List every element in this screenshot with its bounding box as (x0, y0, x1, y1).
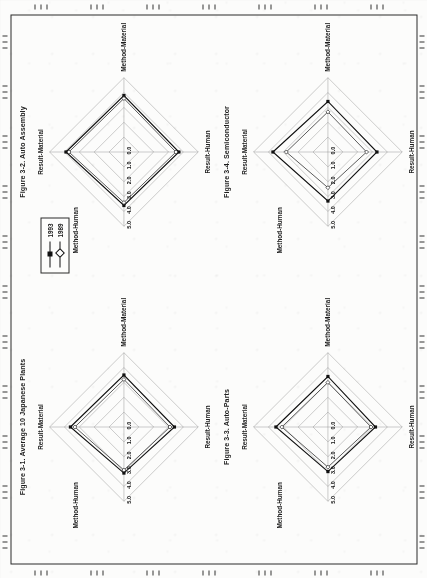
data-point-marker (325, 374, 328, 377)
open-diamond-marker-icon (55, 241, 63, 267)
radial-tick-label: 4.0 (329, 206, 335, 214)
figure-grid: Figure 3-1. Average 10 Japanese Plants 0… (10, 14, 417, 564)
radar-series-1989 (68, 98, 175, 202)
data-point-marker (325, 380, 329, 384)
axis-label-method-human: Method-Human (71, 482, 78, 528)
axis-label-result-material: Result-Material (240, 403, 247, 449)
radar-series-1989 (74, 379, 169, 470)
figure-title-3-4: Figure 3-4. Semiconductor (222, 14, 230, 289)
radial-tick-label: 0.0 (126, 146, 132, 154)
radial-tick-label: 2.0 (329, 176, 335, 184)
radar-gridline (94, 122, 153, 181)
axis-label-method-material: Method-Material (323, 297, 330, 346)
radar-gridline (312, 412, 342, 442)
radial-tick-label: 1.0 (126, 436, 132, 444)
axis-label-method-material: Method-Material (120, 297, 127, 346)
figure-cell-3-2: Figure 3-2. Auto Assembly 0.01.02.03.04.… (10, 14, 214, 289)
figure-cell-3-3: Figure 3-3. Auto-Parts 0.01.02.03.04.05.… (214, 289, 418, 564)
axis-label-method-human: Method-Human (275, 207, 282, 253)
legend-entry-1993: 1993 (44, 223, 54, 267)
axis-label-method-material: Method-Material (323, 22, 330, 71)
legend-entry-1989: 1989 (54, 223, 64, 267)
radar-gridline (297, 122, 356, 181)
radar-gridline (282, 107, 371, 196)
radial-tick-label: 2.0 (126, 451, 132, 459)
axis-label-result-material: Result-Material (240, 128, 247, 174)
radial-tick-label: 4.0 (126, 481, 132, 489)
data-point-marker (64, 150, 67, 153)
radial-tick-label: 0.0 (329, 421, 335, 429)
radial-tick-label: 1.0 (329, 436, 335, 444)
radar-chart-3-1: 0.01.02.03.04.05.0Result-MaterialMethod-… (28, 289, 212, 564)
radar-chart-3-4: 0.01.02.03.04.05.0Result-MaterialMethod-… (232, 14, 416, 289)
crop-ticks-bottom (419, 0, 425, 578)
document-page: Figure 3-1. Average 10 Japanese Plants 0… (0, 0, 427, 578)
axis-label-result-material: Result-Material (36, 403, 43, 449)
radial-tick-label: 4.0 (329, 481, 335, 489)
scanned-sheet-rotated: Figure 3-1. Average 10 Japanese Plants 0… (0, 0, 427, 578)
data-point-marker (325, 109, 329, 113)
figure-cell-3-1: Figure 3-1. Average 10 Japanese Plants 0… (10, 289, 214, 564)
radar-gridline (297, 397, 356, 456)
crop-ticks-top (2, 0, 8, 578)
radar-svg: 0.01.02.03.04.05.0Result-MaterialMethod-… (28, 289, 212, 564)
radar-svg: 0.01.02.03.04.05.0Result-MaterialMethod-… (232, 14, 416, 289)
figure-title-3-2: Figure 3-2. Auto Assembly (18, 14, 26, 289)
radial-tick-label: 4.0 (126, 206, 132, 214)
radar-gridline (109, 412, 139, 442)
filled-square-marker-icon (45, 241, 53, 267)
radar-gridline (64, 92, 183, 211)
crop-ticks-left (0, 569, 427, 575)
axis-label-method-human: Method-Human (275, 482, 282, 528)
radial-tick-label: 1.0 (126, 161, 132, 169)
axis-label-result-material: Result-Material (36, 128, 43, 174)
radial-tick-label: 0.0 (126, 421, 132, 429)
data-point-marker (270, 150, 273, 153)
radial-tick-label: 2.0 (329, 451, 335, 459)
legend-label-1993: 1993 (46, 223, 53, 237)
axis-label-result-human: Result-Human (204, 130, 211, 173)
radar-svg: 0.01.02.03.04.05.0Result-MaterialMethod-… (232, 289, 416, 564)
radial-tick-label: 5.0 (126, 220, 132, 228)
chart-legend: 1993 1989 (40, 217, 69, 273)
scanned-sheet: Figure 3-1. Average 10 Japanese Plants 0… (0, 0, 427, 578)
figure-title-3-3: Figure 3-3. Auto-Parts (222, 289, 230, 564)
radar-series-1989 (281, 382, 370, 467)
data-point-marker (325, 99, 328, 102)
radar-gridline (312, 137, 342, 167)
radial-tick-label: 5.0 (329, 495, 335, 503)
crop-ticks-right (0, 3, 427, 9)
radar-series-1993 (70, 374, 174, 472)
radar-gridline (282, 382, 371, 471)
radar-gridline (79, 382, 168, 471)
data-point-marker (68, 425, 71, 428)
radial-tick-label: 2.0 (126, 176, 132, 184)
figure-cell-3-4: Figure 3-4. Semiconductor 0.01.02.03.04.… (214, 14, 418, 289)
axis-label-result-human: Result-Human (407, 405, 414, 448)
radar-gridline (253, 77, 402, 226)
data-point-marker (273, 425, 276, 428)
axis-label-result-human: Result-Human (407, 130, 414, 173)
axis-label-method-human: Method-Human (71, 207, 78, 253)
radar-gridline (79, 107, 168, 196)
axis-label-result-human: Result-Human (204, 405, 211, 448)
radar-gridline (109, 137, 139, 167)
radial-tick-label: 1.0 (329, 161, 335, 169)
radial-tick-label: 0.0 (329, 146, 335, 154)
axis-label-method-material: Method-Material (120, 22, 127, 71)
radial-tick-label: 5.0 (126, 495, 132, 503)
data-point-marker (122, 373, 125, 376)
radial-tick-label: 5.0 (329, 220, 335, 228)
legend-label-1989: 1989 (56, 223, 63, 237)
radar-gridline (94, 397, 153, 456)
radar-chart-3-3: 0.01.02.03.04.05.0Result-MaterialMethod-… (232, 289, 416, 564)
figure-title-3-1: Figure 3-1. Average 10 Japanese Plants (18, 289, 26, 564)
data-point-marker (279, 425, 283, 429)
